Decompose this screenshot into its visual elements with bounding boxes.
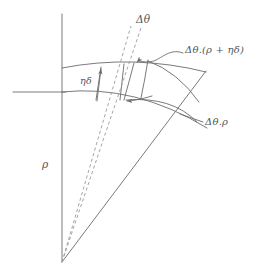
diagram-svg — [0, 0, 261, 280]
inner-arc — [62, 91, 207, 128]
thickness-arrow — [97, 69, 101, 101]
inner-cross-curve — [126, 99, 197, 122]
label-radius: ρ — [42, 159, 48, 170]
outer-label-leader — [137, 52, 183, 62]
radial-segment-inner — [124, 63, 134, 100]
label-inner-arc-length: Δθ.ρ — [205, 117, 228, 127]
outer-cross-curve — [148, 61, 199, 102]
dashed-ray-left — [62, 26, 131, 262]
radial-segment-outer — [141, 60, 148, 98]
label-thickness: ηδ — [80, 76, 92, 86]
figure-canvas: Δθ Δθ.(ρ + ηδ) Δθ.ρ ηδ ρ — [0, 0, 261, 280]
label-delta-theta: Δθ — [136, 14, 150, 25]
label-outer-arc-length: Δθ.(ρ + ηδ) — [185, 45, 244, 55]
inner-label-leader — [180, 114, 203, 122]
